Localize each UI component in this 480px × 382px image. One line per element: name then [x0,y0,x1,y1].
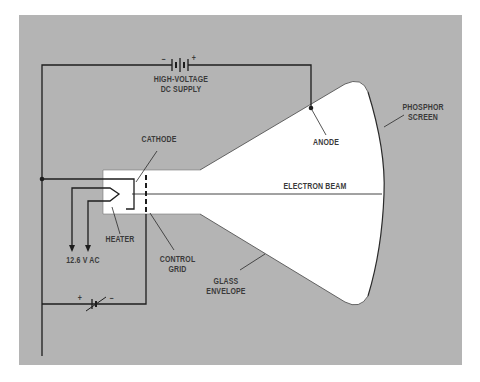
phosphor-screen-label: PHOSPHOR SCREEN [403,102,444,122]
glass-line2: ENVELOPE [205,286,248,296]
hv-supply-label: HIGH-VOLTAGE DC SUPPLY [146,74,217,94]
control-grid-label: CONTROL GRID [159,254,196,274]
hv-plus-sign: + [191,53,198,63]
phosphor-leader [384,115,404,127]
hv-supply-line1: HIGH-VOLTAGE [146,74,217,84]
arrow-down-icon [85,245,91,252]
electron-beam-label: ELECTRON BEAM [282,181,348,191]
glass-leader [240,254,265,270]
cathode-label: CATHODE [139,134,180,144]
glass-envelope-label: GLASS ENVELOPE [205,276,248,296]
glass-line1: GLASS [205,276,248,286]
hv-minus-sign: − [161,54,168,64]
bias-plus-sign: + [77,293,84,303]
control-grid-line2: GRID [159,264,196,274]
heater-voltage-label: 12.6 V AC [63,255,104,265]
anode-junction [309,106,314,111]
control-grid-line1: CONTROL [159,254,196,264]
anode-label: ANODE [310,137,343,147]
grid-leader [150,213,174,250]
heater-label: HEATER [104,234,137,244]
cathode-junction [40,177,45,182]
phosphor-line2: SCREEN [403,112,444,122]
arrow-down-icon [69,245,75,252]
phosphor-line1: PHOSPHOR [403,102,444,112]
crt-diagram [0,0,480,382]
bias-minus-sign: − [109,293,116,303]
hv-supply-line2: DC SUPPLY [146,84,217,94]
